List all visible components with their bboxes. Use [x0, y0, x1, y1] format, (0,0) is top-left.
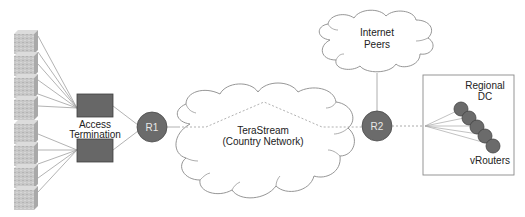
upper-server-links — [38, 36, 77, 108]
access-termination-label-2: Termination — [69, 129, 121, 140]
server-icon — [14, 30, 38, 54]
terastream-label-1: TeraStream — [237, 125, 289, 136]
access-to-r1-links — [113, 106, 138, 150]
router-r1[interactable]: R1 — [137, 112, 167, 142]
terastream-label-2: (Country Network) — [222, 136, 303, 147]
server-icon — [14, 186, 38, 210]
lower-server-links — [38, 134, 77, 192]
router-r1-label: R1 — [146, 122, 159, 133]
vrouters-label: vRouters — [470, 155, 510, 166]
vrouter-icon[interactable] — [486, 139, 500, 153]
router-r2[interactable]: R2 — [362, 111, 392, 141]
access-termination-box-lower — [77, 139, 113, 162]
router-r2-label: R2 — [371, 121, 384, 132]
network-diagram: Access Termination TeraStream (Country N… — [0, 0, 525, 217]
access-termination-box-upper — [77, 94, 113, 117]
server-icon — [14, 52, 38, 76]
regional-dc-label-2: DC — [478, 91, 492, 102]
server-icon — [14, 120, 38, 144]
upper-server-stack — [14, 30, 38, 120]
internet-peers-label-2: Peers — [364, 39, 390, 50]
server-icon — [14, 96, 38, 120]
server-icon — [14, 164, 38, 188]
internet-peers-label-1: Internet — [360, 27, 394, 38]
server-icon — [14, 142, 38, 166]
regional-dc-label-1: Regional — [465, 80, 504, 91]
server-icon — [14, 74, 38, 98]
lower-server-stack — [14, 120, 38, 210]
